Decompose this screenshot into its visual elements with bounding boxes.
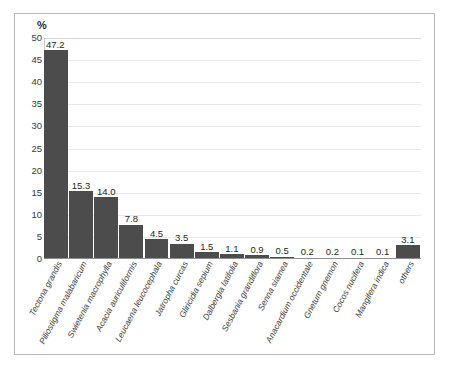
bar-slot: 0.9 bbox=[245, 38, 269, 259]
bar-value-label: 1.1 bbox=[225, 244, 238, 254]
bar[interactable] bbox=[396, 245, 420, 259]
bar-value-label: 4.5 bbox=[150, 229, 163, 239]
y-tick-label: 0 bbox=[20, 254, 42, 264]
bar[interactable] bbox=[145, 239, 169, 259]
y-axis-unit-label: % bbox=[37, 19, 47, 31]
plot-area: 47.215.314.07.84.53.51.51.10.90.50.20.20… bbox=[44, 38, 421, 259]
y-tick-label: 20 bbox=[20, 166, 42, 176]
bar[interactable] bbox=[94, 197, 118, 259]
bar-value-label: 0.1 bbox=[376, 247, 389, 257]
y-tick-label: 5 bbox=[20, 232, 42, 242]
bar[interactable] bbox=[69, 191, 93, 259]
bar[interactable] bbox=[170, 244, 194, 259]
y-tick-label: 10 bbox=[20, 210, 42, 220]
bar-value-label: 3.5 bbox=[175, 233, 188, 243]
bar-slot: 4.5 bbox=[145, 38, 169, 259]
y-tick-label: 15 bbox=[20, 188, 42, 198]
bar-series: 47.215.314.07.84.53.51.51.10.90.50.20.20… bbox=[44, 38, 421, 259]
x-label-slot: others bbox=[396, 260, 420, 355]
bar-value-label: 15.3 bbox=[72, 181, 91, 191]
bar-value-label: 3.1 bbox=[401, 235, 414, 245]
bar-slot: 47.2 bbox=[44, 38, 68, 259]
bar-slot: 1.1 bbox=[220, 38, 244, 259]
bar-value-label: 0.9 bbox=[250, 245, 263, 255]
bar-value-label: 0.2 bbox=[301, 247, 314, 257]
bar-slot: 3.5 bbox=[170, 38, 194, 259]
bar-slot: 15.3 bbox=[69, 38, 93, 259]
bar-slot: 0.1 bbox=[371, 38, 395, 259]
bar-value-label: 0.1 bbox=[351, 247, 364, 257]
y-tick-label: 25 bbox=[20, 144, 42, 154]
bar-slot: 1.5 bbox=[195, 38, 219, 259]
bar-value-label: 0.2 bbox=[326, 247, 339, 257]
y-tick-label: 50 bbox=[20, 33, 42, 43]
bar-value-label: 7.8 bbox=[125, 214, 138, 224]
x-label-slot: Mangifera indica bbox=[371, 260, 395, 355]
bar[interactable] bbox=[44, 50, 68, 259]
bar-value-label: 0.5 bbox=[276, 246, 289, 256]
x-axis-line bbox=[44, 258, 421, 259]
bar-slot: 0.1 bbox=[346, 38, 370, 259]
x-tick-label: others bbox=[397, 260, 416, 285]
y-tick-label: 35 bbox=[20, 100, 42, 110]
bar-value-label: 1.5 bbox=[200, 242, 213, 252]
bar-slot: 0.2 bbox=[295, 38, 319, 259]
y-tick-label: 45 bbox=[20, 55, 42, 65]
bar-value-label: 14.0 bbox=[97, 187, 116, 197]
y-tick-label: 30 bbox=[20, 122, 42, 132]
x-axis-tick-labels: Tectona grandisPiliostigma malabaricumSw… bbox=[44, 260, 421, 355]
bar-slot: 7.8 bbox=[119, 38, 143, 259]
bar-value-label: 47.2 bbox=[46, 40, 65, 50]
bar-slot: 14.0 bbox=[94, 38, 118, 259]
y-axis-tick-labels: 50454035302520151050 bbox=[16, 38, 42, 259]
bar-slot: 3.1 bbox=[396, 38, 420, 259]
chart-figure: % 50454035302520151050 47.215.314.07.84.… bbox=[14, 13, 435, 355]
bar-slot: 0.2 bbox=[320, 38, 344, 259]
bar-slot: 0.5 bbox=[270, 38, 294, 259]
y-tick-label: 40 bbox=[20, 77, 42, 87]
bar[interactable] bbox=[119, 225, 143, 259]
